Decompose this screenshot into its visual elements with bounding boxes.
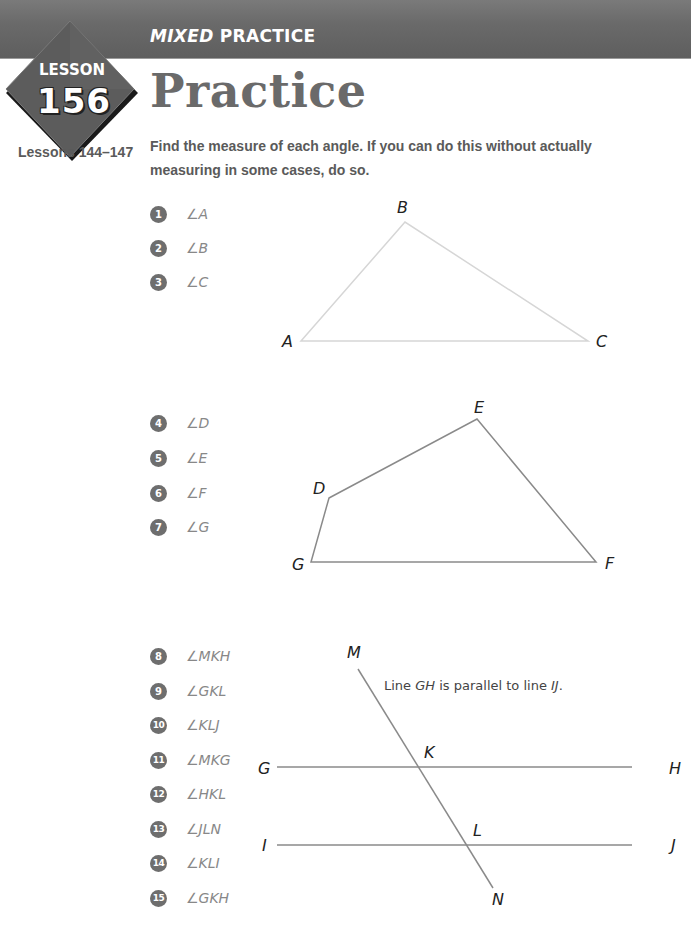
- problem-angle: ∠GKL: [186, 683, 226, 699]
- problem-item: 4∠D: [150, 413, 209, 433]
- vertex-label-c: C: [596, 332, 607, 351]
- problem-item: 1∠A: [150, 204, 208, 224]
- note-text: .: [559, 678, 563, 693]
- problem-number-badge: 2: [150, 240, 167, 257]
- problem-angle: ∠D: [186, 415, 209, 431]
- point-label-g: G: [258, 759, 270, 778]
- note-line-ij: IJ: [551, 678, 559, 693]
- point-label-j: J: [671, 836, 676, 855]
- problem-angle: ∠E: [186, 450, 207, 466]
- problem-angle: ∠A: [186, 206, 208, 222]
- problem-number-badge: 13: [150, 821, 167, 838]
- problem-item: 6∠F: [150, 483, 207, 503]
- problem-number-badge: 4: [150, 415, 167, 432]
- triangle-abc: [301, 222, 588, 341]
- point-label-i: I: [262, 836, 267, 855]
- vertex-label-b: B: [397, 198, 408, 217]
- problem-item: 9∠GKL: [150, 681, 226, 701]
- vertex-label-g: G: [292, 555, 304, 574]
- note-line-gh: GH: [415, 678, 435, 693]
- problem-item: 12∠HKL: [150, 784, 226, 804]
- note-text: is parallel to line: [435, 678, 551, 693]
- problem-number-badge: 11: [150, 752, 167, 769]
- vertex-label-e: E: [474, 398, 484, 417]
- point-label-h: H: [669, 759, 681, 778]
- problem-item: 14∠KLI: [150, 853, 220, 873]
- problem-item: 13∠JLN: [150, 819, 221, 839]
- problem-angle: ∠HKL: [186, 786, 226, 802]
- problem-angle: ∠G: [186, 519, 209, 535]
- point-label-l: L: [473, 821, 482, 840]
- problem-item: 7∠G: [150, 517, 209, 537]
- parallel-note: Line GH is parallel to line IJ.: [384, 678, 563, 693]
- problem-angle: ∠F: [186, 485, 207, 501]
- problem-angle: ∠GKH: [186, 890, 229, 906]
- problem-item: 3∠C: [150, 272, 208, 292]
- vertex-label-f: F: [605, 554, 614, 573]
- problem-item: 10∠KLJ: [150, 715, 220, 735]
- problem-angle: ∠C: [186, 274, 208, 290]
- problem-number-badge: 10: [150, 717, 167, 734]
- geometry-figures: [0, 0, 691, 933]
- vertex-label-a: A: [282, 332, 293, 351]
- problem-number-badge: 5: [150, 450, 167, 467]
- problem-number-badge: 3: [150, 274, 167, 291]
- problem-angle: ∠KLI: [186, 855, 220, 871]
- point-label-m: M: [347, 643, 361, 662]
- point-label-n: N: [492, 890, 504, 909]
- problem-item: 15∠GKH: [150, 888, 229, 908]
- problem-item: 11∠MKG: [150, 750, 231, 770]
- problem-angle: ∠MKH: [186, 648, 230, 664]
- transversal-mn: [358, 669, 493, 888]
- problem-number-badge: 6: [150, 485, 167, 502]
- problem-angle: ∠MKG: [186, 752, 231, 768]
- problem-item: 8∠MKH: [150, 646, 230, 666]
- note-text: Line: [384, 678, 415, 693]
- problem-number-badge: 1: [150, 206, 167, 223]
- point-label-k: K: [424, 743, 435, 762]
- problem-number-badge: 7: [150, 519, 167, 536]
- problem-number-badge: 15: [150, 890, 167, 907]
- problem-number-badge: 12: [150, 786, 167, 803]
- problem-item: 2∠B: [150, 238, 208, 258]
- problem-angle: ∠KLJ: [186, 717, 220, 733]
- problem-number-badge: 8: [150, 648, 167, 665]
- problem-item: 5∠E: [150, 448, 207, 468]
- quadrilateral-defg: [311, 419, 596, 562]
- problem-angle: ∠B: [186, 240, 208, 256]
- problem-angle: ∠JLN: [186, 821, 221, 837]
- vertex-label-d: D: [313, 479, 325, 498]
- problem-number-badge: 14: [150, 855, 167, 872]
- problem-number-badge: 9: [150, 683, 167, 700]
